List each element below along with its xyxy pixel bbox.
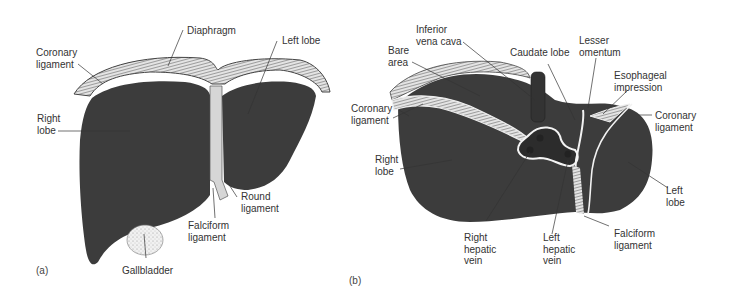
left-lobe-shape	[222, 82, 316, 190]
label-diaphragm: Diaphragm	[187, 25, 236, 37]
gallbladder-shape	[127, 225, 163, 255]
label-falciform-ligament-b: Falciform ligament	[614, 228, 655, 251]
label-coronary-ligament-b-left: Coronary ligament	[351, 103, 392, 126]
label-coronary-ligament-b-right: Coronary ligament	[655, 110, 696, 133]
label-caudate-lobe: Caudate lobe	[510, 47, 570, 59]
label-right-lobe-b: Right lobe	[375, 154, 398, 177]
label-left-hepatic-vein: Left hepatic vein	[543, 232, 575, 267]
panel-tag-a: (a)	[36, 265, 48, 276]
label-round-ligament: Round ligament	[241, 191, 279, 214]
label-gallbladder: Gallbladder	[122, 265, 173, 277]
label-inferior-vena-cava: Inferior vena cava	[416, 24, 462, 47]
label-left-lobe-a: Left lobe	[282, 35, 320, 47]
label-lesser-omentum: Lesser omentum	[579, 35, 621, 58]
label-esophageal-impression: Esophageal impression	[614, 70, 667, 93]
ivc-shape	[531, 72, 545, 122]
label-right-hepatic-vein: Right hepatic vein	[464, 232, 496, 267]
label-bare-area: Bare area	[388, 45, 409, 68]
label-coronary-ligament-a: Coronary ligament	[36, 47, 77, 70]
label-falciform-ligament-a: Falciform ligament	[188, 220, 229, 243]
label-right-lobe-a: Right lobe	[37, 113, 60, 136]
label-left-lobe-b: Left lobe	[666, 185, 685, 208]
panel-tag-b: (b)	[349, 275, 361, 286]
